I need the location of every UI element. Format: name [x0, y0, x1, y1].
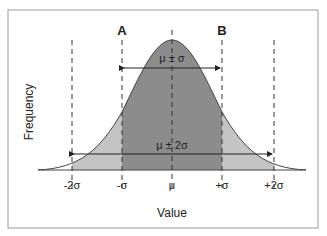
svg-text:+σ: +σ [215, 179, 228, 191]
normal-distribution-diagram: μ ± σ μ ± 2σ A B -2σ -σ μ +σ +2σ Value F… [0, 0, 327, 236]
svg-text:+2σ: +2σ [264, 179, 284, 191]
two-sigma-label: μ ± 2σ [156, 139, 188, 151]
one-sigma-label: μ ± σ [159, 52, 184, 64]
marker-b-label: B [217, 23, 226, 38]
x-axis-label: Value [157, 206, 187, 220]
marker-a-label: A [117, 23, 127, 38]
svg-text:-2σ: -2σ [64, 179, 81, 191]
svg-text:-σ: -σ [117, 179, 128, 191]
y-axis-label: Frequency [22, 84, 36, 141]
svg-text:μ: μ [169, 179, 175, 191]
